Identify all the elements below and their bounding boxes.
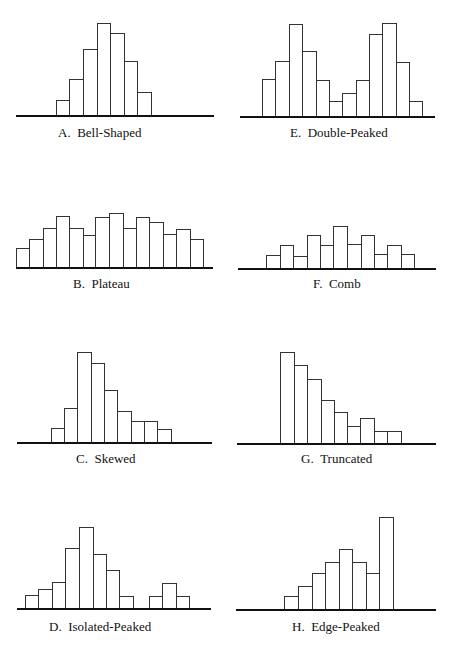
- histogram-bar: [150, 223, 164, 268]
- histogram-bar: [410, 102, 423, 117]
- histogram-bar: [313, 574, 326, 610]
- histogram-a-bell-shaped: A. Bell-Shaped: [16, 24, 214, 141]
- histogram-shapes-figure: A. Bell-Shaped E. Double-Peaked B. Plate…: [0, 0, 451, 652]
- histogram-bar: [94, 555, 107, 609]
- histogram-bar: [98, 24, 111, 116]
- histogram-bar: [276, 62, 290, 117]
- histogram-caption: B. Plateau: [73, 276, 130, 291]
- histogram-bar: [26, 596, 39, 609]
- histogram-b-plateau: B. Plateau: [16, 214, 213, 292]
- histogram-bar: [295, 366, 308, 444]
- histogram-bar: [357, 81, 370, 117]
- histogram-bar: [53, 583, 66, 609]
- histogram-bar: [145, 422, 158, 443]
- histogram-caption: C. Skewed: [76, 451, 136, 466]
- histogram-bar: [57, 217, 70, 268]
- histogram-caption: E. Double-Peaked: [290, 125, 388, 140]
- histogram-caption: A. Bell-Shaped: [58, 125, 142, 140]
- histogram-bar: [334, 227, 348, 269]
- histogram-bar: [39, 590, 53, 609]
- histogram-bar: [164, 235, 177, 268]
- histogram-bar: [132, 422, 145, 443]
- histogram-bar: [150, 597, 163, 609]
- histogram-bar: [78, 353, 92, 443]
- histogram-bar: [163, 584, 177, 609]
- histogram-bar: [138, 93, 152, 116]
- histogram-bar: [362, 236, 375, 269]
- histogram-bar: [321, 246, 334, 269]
- histogram-bar: [110, 214, 124, 268]
- histogram-bar: [317, 81, 330, 117]
- histogram-bar: [380, 518, 394, 610]
- histogram-bar: [118, 412, 132, 443]
- histogram-bar: [281, 246, 294, 269]
- histogram-bar: [367, 574, 380, 610]
- histogram-caption: D. Isolated-Peaked: [49, 619, 152, 634]
- histogram-bar: [158, 430, 172, 443]
- histogram-bar: [326, 563, 340, 610]
- histogram-bar: [30, 240, 44, 268]
- histogram-c-skewed: C. Skewed: [17, 353, 212, 467]
- histogram-caption: F. Comb: [313, 276, 361, 291]
- histogram-bar: [124, 229, 137, 268]
- histogram-caption: H. Edge-Peaked: [292, 619, 380, 634]
- histogram-bar: [44, 229, 57, 268]
- histogram-bar: [388, 246, 402, 269]
- histogram-bar: [285, 597, 299, 610]
- histogram-bar: [370, 35, 383, 117]
- histogram-bar: [66, 549, 80, 609]
- histogram-bar: [375, 255, 388, 269]
- histogram-bar: [80, 528, 94, 609]
- histogram-caption: G. Truncated: [301, 451, 373, 466]
- histogram-h-edge-peaked: H. Edge-Peaked: [236, 518, 436, 635]
- histogram-bar: [343, 94, 357, 117]
- histogram-bar: [267, 256, 281, 269]
- histogram-bar: [335, 413, 348, 444]
- histogram-bar: [52, 429, 65, 443]
- histogram-bar: [263, 80, 276, 117]
- histogram-bar: [397, 63, 410, 117]
- histogram-bar: [84, 236, 96, 268]
- histogram-bar: [353, 563, 367, 610]
- histogram-bar: [84, 50, 98, 116]
- histogram-bar: [177, 230, 191, 268]
- histogram-bar: [96, 218, 110, 268]
- histogram-bar: [348, 245, 362, 269]
- histogram-bar: [308, 236, 321, 269]
- histogram-bar: [57, 101, 70, 116]
- histogram-bar: [137, 218, 150, 268]
- histogram-bar: [70, 80, 84, 116]
- histogram-bar: [65, 409, 78, 443]
- histogram-bar: [340, 550, 353, 610]
- histogram-bar: [299, 587, 313, 610]
- histogram-bar: [348, 427, 361, 444]
- histogram-bar: [294, 257, 308, 269]
- histogram-bar: [330, 102, 343, 117]
- histogram-d-isolated-peaked: D. Isolated-Peaked: [17, 528, 211, 635]
- histogram-bar: [191, 240, 204, 268]
- histogram-bar: [281, 353, 295, 444]
- histogram-bar: [290, 25, 303, 117]
- histogram-bar: [308, 380, 322, 444]
- histogram-g-truncated: G. Truncated: [237, 353, 436, 467]
- histogram-bar: [105, 391, 118, 443]
- histogram-bar: [111, 34, 125, 116]
- histogram-bar: [375, 432, 388, 444]
- histogram-bar: [107, 571, 120, 609]
- histogram-bar: [383, 24, 397, 117]
- histogram-bar: [125, 62, 138, 116]
- histogram-bar: [70, 229, 84, 268]
- histogram-bar: [303, 52, 317, 117]
- histogram-bar: [402, 255, 415, 269]
- histogram-f-comb: F. Comb: [238, 227, 436, 292]
- histogram-bar: [388, 432, 402, 444]
- histogram-bar: [120, 597, 134, 609]
- histogram-bar: [322, 401, 335, 444]
- histogram-bar: [92, 364, 105, 443]
- histogram-bar: [17, 249, 30, 268]
- histogram-bar: [361, 419, 375, 444]
- histogram-bar: [177, 597, 190, 609]
- histogram-e-double-peaked: E. Double-Peaked: [240, 24, 435, 141]
